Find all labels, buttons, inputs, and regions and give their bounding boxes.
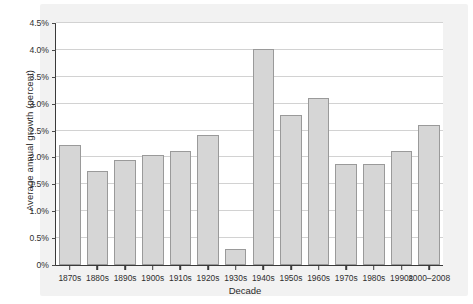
- y-tick-label: 0%: [37, 260, 49, 270]
- x-tick-label: 1960s: [307, 273, 330, 283]
- x-tick-label: 1930s: [224, 273, 247, 283]
- bar: [87, 171, 109, 265]
- x-axis-title: Decade: [45, 285, 445, 296]
- x-tick-label: 1920s: [197, 273, 220, 283]
- bar-slot: [360, 23, 388, 265]
- y-tick-label: 2.0%: [29, 152, 49, 162]
- bar-slot: [305, 23, 333, 265]
- x-tick-label: 1870s: [58, 273, 81, 283]
- y-tick-label: 1.0%: [29, 206, 49, 216]
- bar: [59, 145, 81, 265]
- bar: [308, 98, 330, 265]
- bar: [142, 155, 164, 265]
- bar-slot: [194, 23, 222, 265]
- x-tick-mark: [97, 265, 99, 270]
- x-tick-label: 1980s: [362, 273, 385, 283]
- x-tick-mark: [373, 265, 375, 270]
- plot-area: 0%0.5%1.0%1.5%2.0%2.5%3.0%3.5%4.0%4.5% 1…: [55, 23, 443, 266]
- bar-slot: [56, 23, 84, 265]
- x-tick-mark: [290, 265, 292, 270]
- bar-slot: [277, 23, 305, 265]
- y-tick-label: 1.5%: [29, 179, 49, 189]
- x-tick-mark: [345, 265, 347, 270]
- bar: [418, 125, 440, 265]
- bar-slot: [222, 23, 250, 265]
- bar: [225, 249, 247, 265]
- x-tick-label: 1880s: [86, 273, 109, 283]
- y-tick-label: 4.5%: [29, 18, 49, 28]
- x-tick-mark: [428, 265, 430, 270]
- y-tick-mark: [52, 265, 56, 266]
- x-tick-label: 1890s: [114, 273, 137, 283]
- bar: [280, 115, 302, 265]
- bar: [363, 164, 385, 265]
- x-tick-mark: [124, 265, 126, 270]
- x-tick-label: 1900s: [141, 273, 164, 283]
- x-tick-mark: [180, 265, 182, 270]
- x-tick-label: 1910s: [169, 273, 192, 283]
- x-tick-label: 1940s: [252, 273, 275, 283]
- bar: [335, 164, 357, 265]
- x-tick-mark: [152, 265, 154, 270]
- x-tick-mark: [69, 265, 71, 270]
- bar: [197, 135, 219, 265]
- y-tick-label: 0.5%: [29, 233, 49, 243]
- bar-slot: [415, 23, 443, 265]
- bar-slot: [250, 23, 278, 265]
- y-tick-label: 4.0%: [29, 45, 49, 55]
- bars-layer: [56, 23, 443, 265]
- x-tick-label: 2000–2008: [408, 273, 450, 283]
- x-tick-mark: [207, 265, 209, 270]
- bar-slot: [388, 23, 416, 265]
- bar-slot: [139, 23, 167, 265]
- bar: [253, 49, 275, 265]
- x-tick-mark: [235, 265, 237, 270]
- y-tick-label: 3.5%: [29, 72, 49, 82]
- bar: [391, 151, 413, 265]
- x-tick-label: 1950s: [280, 273, 303, 283]
- y-tick-label: 2.5%: [29, 126, 49, 136]
- x-tick-mark: [263, 265, 265, 270]
- x-tick-mark: [401, 265, 403, 270]
- bar: [114, 160, 136, 265]
- bar-slot: [167, 23, 195, 265]
- bar-chart-figure: Average annual growth (percent) 0%0.5%1.…: [0, 0, 473, 304]
- bar-slot: [84, 23, 112, 265]
- bar-slot: [332, 23, 360, 265]
- y-tick-label: 3.0%: [29, 99, 49, 109]
- x-tick-label: 1970s: [335, 273, 358, 283]
- bar-slot: [111, 23, 139, 265]
- x-tick-mark: [318, 265, 320, 270]
- bar: [170, 151, 192, 265]
